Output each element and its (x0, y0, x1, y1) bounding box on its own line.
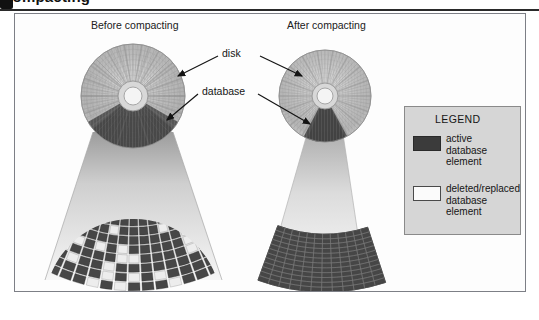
figure-frame: Before compacting After compacting (14, 13, 526, 292)
legend-label-active: active database element (446, 133, 487, 168)
legend-swatch-active (413, 136, 441, 151)
database-fan-after (258, 226, 386, 291)
legend-title: LEGEND (435, 113, 481, 125)
legend-swatch-deleted (413, 186, 441, 201)
legend: LEGEND active database element deleted/r… (404, 106, 521, 235)
callout-label-disk: disk (220, 47, 243, 59)
callout-label-database: database (200, 85, 247, 97)
disk-before (81, 44, 185, 148)
disk-after (279, 50, 371, 143)
legend-label-deleted: deleted/replaced database element (446, 183, 520, 218)
arrow-disk-left (178, 56, 218, 76)
header-rule (0, 9, 539, 11)
page-header-text: compacting (4, 0, 90, 5)
